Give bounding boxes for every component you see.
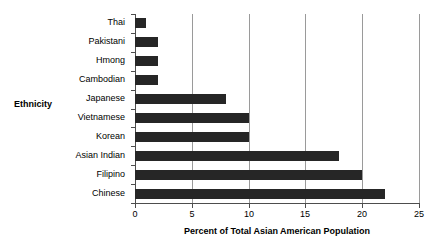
bar	[135, 189, 385, 199]
bar	[135, 18, 146, 28]
y-tick-label: Thai	[0, 17, 130, 28]
x-tick	[419, 203, 420, 208]
bar	[135, 170, 362, 180]
bar	[135, 75, 158, 85]
y-tick-label: Asian Indian	[0, 150, 130, 161]
bar-chart: Ethnicity ThaiPakistaniHmongCambodianJap…	[0, 0, 448, 245]
y-tick-label: Vietnamese	[0, 112, 130, 123]
y-tick-label: Chinese	[0, 188, 130, 199]
gridline-25	[419, 14, 420, 203]
x-axis-line	[135, 203, 420, 204]
y-tick-label: Korean	[0, 131, 130, 142]
bar	[135, 94, 226, 104]
x-tick-label: 20	[342, 209, 382, 220]
x-tick-label: 0	[115, 209, 155, 220]
x-tick	[192, 203, 193, 208]
x-tick	[249, 203, 250, 208]
bar	[135, 37, 158, 47]
y-tick-label: Hmong	[0, 55, 130, 66]
bar	[135, 151, 339, 161]
bar	[135, 56, 158, 66]
plot-area	[135, 14, 419, 203]
x-tick-label: 25	[399, 209, 439, 220]
x-tick-label: 5	[172, 209, 212, 220]
y-tick-label: Pakistani	[0, 36, 130, 47]
y-tick-label: Japanese	[0, 93, 130, 104]
x-tick-label: 15	[285, 209, 325, 220]
y-tick-label: Cambodian	[0, 74, 130, 85]
x-tick	[362, 203, 363, 208]
x-tick-label: 10	[229, 209, 269, 220]
bar	[135, 132, 249, 142]
gridline-20	[362, 14, 363, 203]
bar	[135, 113, 249, 123]
x-axis-title: Percent of Total Asian American Populati…	[135, 226, 419, 237]
x-tick	[305, 203, 306, 208]
x-tick	[135, 203, 136, 208]
y-tick-label: Filipino	[0, 169, 130, 180]
